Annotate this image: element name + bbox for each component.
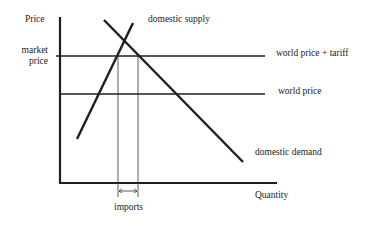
world-price-label: world price: [278, 86, 322, 97]
diagram-canvas: [0, 0, 375, 226]
x-axis-label: Quantity: [255, 190, 288, 201]
market-price-label-line1: market: [18, 45, 48, 56]
demand-curve: [104, 20, 243, 162]
supply-label: domestic supply: [148, 14, 210, 25]
y-axis-label: Price: [25, 14, 45, 25]
imports-label: imports: [114, 202, 143, 213]
market-price-label-line2: price: [18, 56, 48, 67]
demand-label: domestic demand: [255, 147, 322, 158]
tariff-price-label: world price + tariff: [276, 48, 348, 59]
